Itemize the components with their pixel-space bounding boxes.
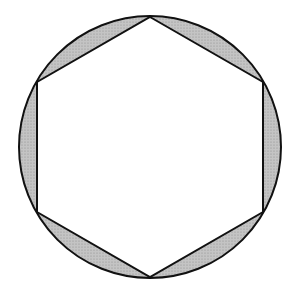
inscribed-hexagon-diagram	[0, 0, 294, 289]
